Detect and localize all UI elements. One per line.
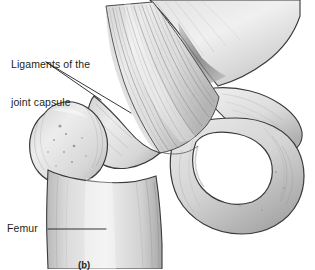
figure-caption: (b)	[78, 259, 90, 270]
label-ligaments-of-joint-capsule: Ligaments of the joint capsule	[11, 33, 90, 133]
femoral-shaft	[47, 170, 162, 269]
label-ligaments-line1: Ligaments of the	[11, 58, 90, 71]
label-ligaments-line2: joint capsule	[11, 96, 90, 109]
label-femur: Femur	[7, 222, 38, 235]
